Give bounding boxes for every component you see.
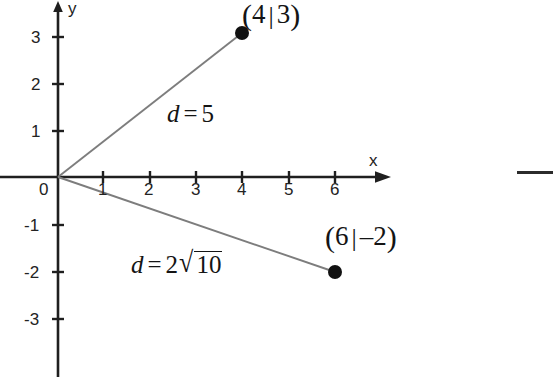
paren-open: ( (325, 220, 335, 253)
distance-label-segment-a: d=5 (167, 101, 214, 126)
y-tick-label-3: 3 (31, 29, 40, 46)
point-label-6-minus2: (6|–2) (325, 222, 397, 252)
x-tick-label-3: 3 (191, 181, 200, 198)
coordinate-separator: | (349, 225, 360, 251)
radicand-value: 10 (194, 251, 222, 277)
x-axis-arrowhead (375, 171, 391, 183)
point-y-value: 3 (277, 0, 291, 29)
y-tick-label-minus-2: -2 (24, 264, 39, 281)
point-label-4-3: (4|3) (242, 0, 300, 30)
x-tick-label-4: 4 (237, 181, 246, 198)
point-x-value: 6 (335, 221, 349, 251)
x-tick-label-1: 1 (98, 181, 107, 198)
equals-sign: = (180, 100, 202, 127)
y-tick-label-minus-3: -3 (24, 311, 39, 328)
y-tick-label-minus-1: -1 (24, 217, 39, 234)
distance-variable: d (131, 251, 144, 278)
square-root-expression: √10 (178, 251, 222, 278)
coordinate-separator: | (266, 3, 277, 29)
radical-coefficient: 2 (166, 251, 179, 278)
x-tick-label-5: 5 (284, 181, 293, 198)
origin-label: 0 (39, 181, 48, 198)
x-tick-label-6: 6 (330, 181, 339, 198)
y-tick-label-1: 1 (31, 123, 40, 140)
paren-close: ) (387, 220, 397, 253)
paren-close: ) (290, 0, 300, 31)
y-axis-label: y (68, 0, 77, 17)
equals-sign: = (144, 251, 166, 278)
coordinate-plane-distance-diagram: y x 0 1 2 3 4 5 6 3 2 1 -1 -2 -3 (4|3) (… (0, 0, 553, 377)
paren-open: ( (242, 0, 252, 31)
y-tick-label-2: 2 (31, 76, 40, 93)
x-axis-label: x (369, 152, 378, 169)
radical-sign-icon: √ (179, 249, 193, 278)
y-axis-arrowhead (53, 1, 63, 12)
distance-variable: d (167, 100, 180, 127)
distance-label-segment-b: d=2√10 (131, 251, 222, 278)
x-tick-label-2: 2 (144, 181, 153, 198)
point-x-value: 4 (252, 0, 266, 29)
segment-origin-to-4-3 (58, 33, 242, 177)
point-y-value: –2 (360, 221, 387, 251)
distance-value: 5 (202, 100, 215, 127)
adjacent-figure-edge-line (517, 171, 553, 174)
point-6-minus2 (328, 265, 342, 279)
plot-canvas (0, 0, 553, 377)
